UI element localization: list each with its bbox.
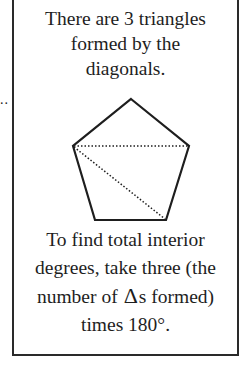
bottom-line-3: number ofΔs formed) — [10, 282, 241, 311]
bottom-line-3-post: s formed) — [139, 286, 214, 307]
bottom-line-2: degrees, take three (the — [10, 254, 241, 282]
bottom-line-4: times 180°. — [10, 311, 241, 339]
pentagon-shape — [73, 99, 189, 220]
explanation-bottom: To find total interior degrees, take thr… — [10, 226, 241, 339]
diagonal-slanted — [74, 147, 165, 219]
bottom-line-3-pre: number of — [37, 286, 118, 307]
callout-box: There are 3 triangles formed by the diag… — [12, 0, 239, 356]
pentagon-diagram — [2, 2, 246, 242]
triangle-delta-symbol: Δ — [124, 283, 138, 308]
bottom-line-1: To find total interior — [10, 226, 241, 254]
